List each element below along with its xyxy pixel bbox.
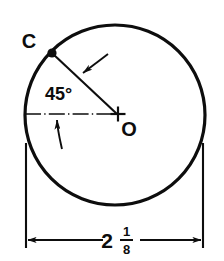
point-c-label: C: [22, 30, 36, 52]
dimension-fraction-denominator: 8: [123, 242, 130, 257]
dimension-fraction-numerator: 1: [123, 224, 130, 239]
angle-lower-leader-arrow: [57, 120, 62, 149]
point-o-label: O: [121, 118, 137, 140]
drawing-svg: C O 45° 2 1 8: [0, 0, 224, 261]
angle-upper-leader-arrow: [83, 54, 108, 73]
engineering-drawing-canvas: C O 45° 2 1 8: [0, 0, 224, 261]
angle-label: 45°: [45, 84, 72, 104]
point-c-marker: [47, 48, 56, 57]
dimension-whole-number: 2: [101, 229, 113, 252]
